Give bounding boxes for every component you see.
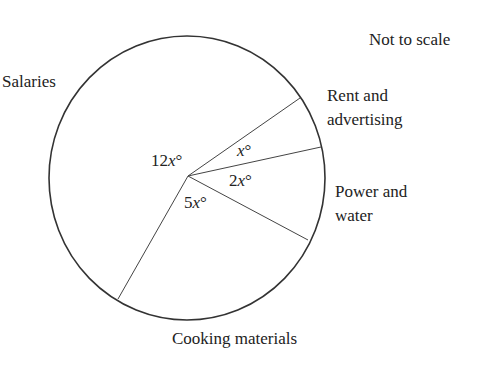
angle-salaries: 12x° (151, 151, 182, 171)
angle-var: x (237, 141, 245, 160)
radius-cooking-salaries (118, 176, 188, 299)
angle-power: 2x° (229, 171, 252, 191)
angle-cooking-coef: 5 (184, 193, 193, 212)
degree-symbol: ° (245, 141, 252, 160)
note-not-to-scale: Not to scale (369, 28, 450, 52)
angle-cooking: 5x° (184, 193, 207, 213)
degree-symbol: ° (245, 171, 252, 190)
degree-symbol: ° (176, 151, 183, 170)
label-power-line1: Power and (335, 180, 407, 204)
angle-var: x (193, 193, 201, 212)
angle-var: x (238, 171, 246, 190)
label-rent-line1: Rent and (327, 84, 403, 108)
angle-var: x (168, 151, 176, 170)
label-power-and-water: Power and water (335, 180, 407, 228)
label-cooking-materials: Cooking materials (172, 327, 297, 351)
label-rent-and-advertising: Rent and advertising (327, 84, 403, 132)
label-salaries: Salaries (2, 70, 56, 94)
label-rent-line2: advertising (327, 108, 403, 132)
angle-power-coef: 2 (229, 171, 238, 190)
angle-salaries-coef: 12 (151, 151, 168, 170)
label-power-line2: water (335, 204, 407, 228)
angle-rent: x° (237, 141, 251, 161)
degree-symbol: ° (200, 193, 207, 212)
